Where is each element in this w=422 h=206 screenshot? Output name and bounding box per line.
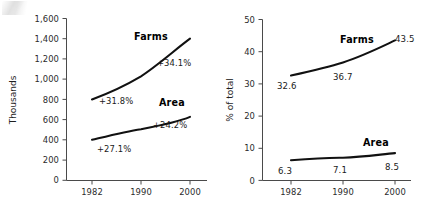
right-line-chart: 50 40 30 20 10 0 1982 1990 2000 % of tot… — [211, 0, 422, 206]
right-ytick-30: 30 — [244, 79, 255, 89]
left-y-axis-title: Thousands — [8, 75, 18, 125]
left-series-label-farms: Farms — [134, 31, 168, 42]
left-chart-svg: 1,600 1,400 1,200 1,000 800 600 400 200 … — [0, 0, 211, 206]
left-ytick-1400: 1,400 — [35, 34, 59, 44]
right-chart-svg: 50 40 30 20 10 0 1982 1990 2000 % of tot… — [211, 0, 422, 206]
left-annot-area-1990-2000: +24.2% — [153, 120, 187, 130]
right-y-axis-title: % of total — [225, 78, 235, 122]
right-xtick-1990: 1990 — [332, 187, 354, 197]
left-ytick-200: 200 — [43, 155, 59, 165]
left-series-label-area: Area — [159, 97, 185, 108]
right-xtick-2000: 2000 — [384, 187, 406, 197]
right-value-area-2000: 8.5 — [385, 162, 399, 172]
right-ytick-50: 50 — [244, 15, 255, 25]
right-x-ticks — [291, 181, 395, 185]
left-y-ticks — [63, 19, 67, 181]
left-xtick-2000: 2000 — [179, 187, 201, 197]
left-ytick-400: 400 — [43, 135, 59, 145]
left-line-chart: 1,600 1,400 1,200 1,000 800 600 400 200 … — [0, 0, 211, 206]
right-value-farms-1990: 36.7 — [333, 72, 353, 82]
right-series-label-area: Area — [363, 137, 389, 148]
left-ytick-1200: 1,200 — [35, 54, 59, 64]
right-ytick-20: 20 — [244, 111, 255, 121]
left-ytick-1000: 1,000 — [35, 74, 59, 84]
right-value-farms-1982: 32.6 — [277, 81, 297, 91]
right-ytick-40: 40 — [244, 47, 255, 57]
right-series-farms-line — [291, 40, 395, 75]
left-annot-farms-1990-2000: +34.1% — [157, 58, 191, 68]
left-series-farms-line — [92, 39, 190, 100]
right-series-label-farms: Farms — [340, 34, 374, 45]
left-xtick-1990: 1990 — [130, 187, 152, 197]
right-xtick-1982: 1982 — [280, 187, 302, 197]
right-value-farms-2000: 43.5 — [395, 34, 415, 44]
left-ytick-800: 800 — [43, 95, 59, 105]
left-xtick-1982: 1982 — [81, 187, 103, 197]
left-ytick-600: 600 — [43, 115, 59, 125]
right-ytick-0: 0 — [250, 176, 255, 186]
left-x-ticks — [92, 181, 190, 185]
left-ytick-1600: 1,600 — [35, 14, 59, 24]
right-value-area-1982: 6.3 — [278, 166, 292, 176]
left-annot-farms-1982-1990: +31.8% — [99, 96, 133, 106]
left-annot-area-1982-1990: +27.1% — [97, 144, 131, 154]
right-series-area-line — [291, 153, 395, 160]
left-ytick-0: 0 — [54, 175, 59, 185]
right-value-area-1990: 7.1 — [333, 165, 347, 175]
right-y-ticks — [259, 20, 263, 181]
figure-canvas: 1,600 1,400 1,200 1,000 800 600 400 200 … — [0, 0, 422, 206]
right-ytick-10: 10 — [244, 143, 255, 153]
